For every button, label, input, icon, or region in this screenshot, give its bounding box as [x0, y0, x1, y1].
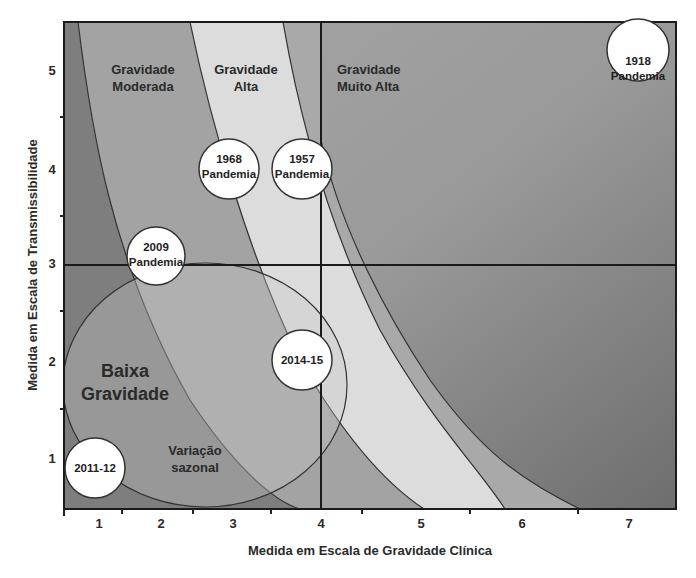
y-tick-label: 3: [48, 256, 55, 271]
point-2009-pandemia: 2009 Pandemia: [127, 227, 185, 285]
svg-text:1968: 1968: [216, 153, 242, 165]
svg-text:2009: 2009: [143, 241, 169, 253]
svg-text:1957: 1957: [289, 153, 315, 165]
region-label-very-high: Gravidade: [337, 62, 401, 77]
x-tick-label: 2: [157, 516, 164, 531]
x-tick-label: 4: [317, 516, 325, 531]
x-tick-label: 7: [625, 516, 632, 531]
point-1957-pandemia: 1957 Pandemia: [272, 139, 332, 199]
x-tick-label: 1: [95, 516, 102, 531]
region-label-high: Gravidade: [214, 62, 278, 77]
x-axis: 1 2 3 4 5 6 7 Medida em Escala de Gravid…: [64, 509, 633, 558]
y-tick-label: 1: [48, 451, 55, 466]
region-label-moderate: Moderada: [112, 79, 174, 94]
point-2014-15: 2014-15: [272, 330, 332, 390]
y-tick-label: 2: [48, 354, 55, 369]
severity-transmissibility-chart: 5 4 3 2 1 Medida em Escala de Transmissi…: [0, 0, 696, 578]
region-label-high: Alta: [234, 79, 259, 94]
svg-text:2014-15: 2014-15: [281, 354, 324, 366]
y-axis: 5 4 3 2 1 Medida em Escala de Transmissi…: [25, 63, 64, 466]
region-label-very-high: Muito Alta: [337, 79, 400, 94]
region-label-moderate: Gravidade: [111, 62, 175, 77]
svg-text:Pandemia: Pandemia: [275, 168, 330, 180]
x-tick-label: 5: [417, 516, 424, 531]
svg-text:Pandemia: Pandemia: [129, 256, 184, 268]
region-label-seasonal: Variação: [168, 443, 222, 458]
point-1918-pandemia: 1918 Pandemia: [607, 19, 669, 82]
region-label-seasonal: sazonal: [171, 460, 219, 475]
svg-text:Pandemia: Pandemia: [202, 168, 257, 180]
svg-text:Pandemia: Pandemia: [611, 70, 666, 82]
svg-text:1918: 1918: [625, 55, 651, 67]
region-label-low: Gravidade: [81, 384, 169, 404]
svg-text:2011-12: 2011-12: [74, 462, 116, 474]
x-tick-label: 3: [229, 516, 236, 531]
y-tick-label: 5: [48, 63, 55, 78]
x-tick-label: 6: [518, 516, 525, 531]
point-2011-12: 2011-12: [65, 438, 125, 498]
point-1968-pandemia: 1968 Pandemia: [199, 139, 259, 199]
y-axis-title: Medida em Escala de Transmissibilidade: [25, 139, 40, 390]
x-axis-title: Medida em Escala de Gravidade Clínica: [248, 543, 493, 558]
region-label-low: Baixa: [101, 361, 150, 381]
y-tick-label: 4: [48, 162, 56, 177]
